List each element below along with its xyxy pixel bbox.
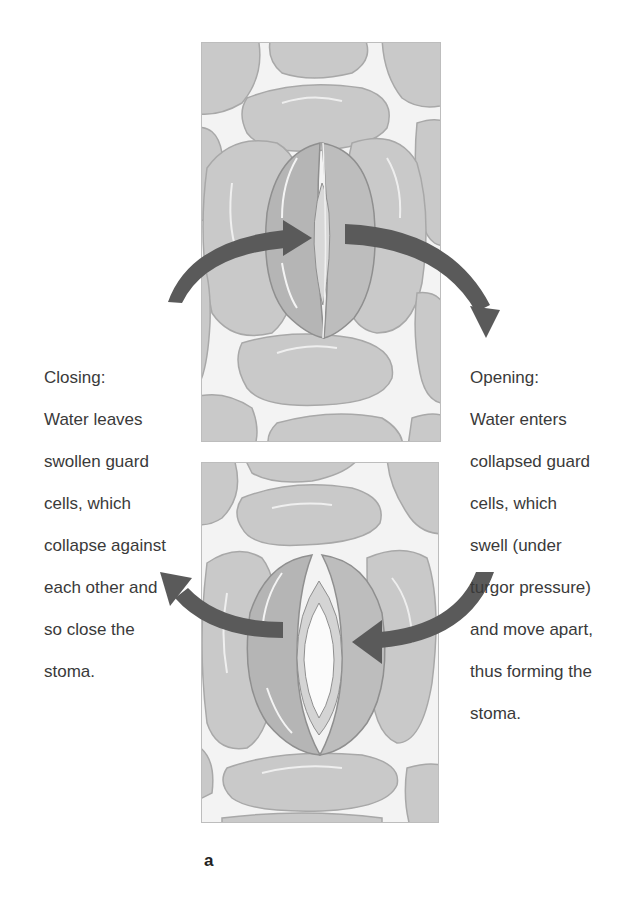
epidermis-cells-illustration	[202, 43, 440, 441]
bottom-panel-open-stoma	[201, 462, 439, 823]
top-panel-closed-stoma	[201, 42, 441, 442]
opening-line: thus forming the	[470, 661, 593, 682]
closing-caption: Closing: Water leaves swollen guard cell…	[44, 346, 166, 703]
closing-line: Water leaves	[44, 409, 166, 430]
opening-line: swell (under	[470, 535, 593, 556]
opening-line: Water enters	[470, 409, 593, 430]
opening-line: and move apart,	[470, 619, 593, 640]
closing-line: stoma.	[44, 661, 166, 682]
closing-line: each other and	[44, 577, 166, 598]
opening-line: turgor pressure)	[470, 577, 593, 598]
closing-title: Closing:	[44, 367, 166, 388]
closing-line: so close the	[44, 619, 166, 640]
closing-line: swollen guard	[44, 451, 166, 472]
closing-line: cells, which	[44, 493, 166, 514]
figure-label: a	[204, 851, 213, 871]
opening-line: collapsed guard	[470, 451, 593, 472]
closing-line: collapse against	[44, 535, 166, 556]
epidermis-cells-illustration	[202, 463, 438, 822]
opening-line: cells, which	[470, 493, 593, 514]
opening-line: stoma.	[470, 703, 593, 724]
opening-caption: Opening: Water enters collapsed guard ce…	[470, 346, 593, 745]
opening-title: Opening:	[470, 367, 593, 388]
